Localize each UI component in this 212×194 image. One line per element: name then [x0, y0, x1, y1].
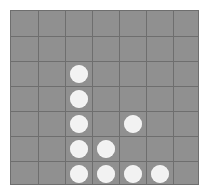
piece-c3-r5[interactable] [70, 115, 88, 133]
piece-c3-r3[interactable] [70, 65, 88, 83]
piece-c4-r6[interactable] [97, 140, 115, 158]
piece-c4-r7[interactable] [97, 165, 115, 183]
grid-game-board[interactable] [10, 10, 199, 185]
piece-c5-r5[interactable] [124, 115, 142, 133]
piece-c5-r7[interactable] [124, 165, 142, 183]
board-container [0, 0, 212, 194]
piece-c3-r6[interactable] [70, 140, 88, 158]
piece-c6-r7[interactable] [151, 165, 169, 183]
piece-c3-r4[interactable] [70, 90, 88, 108]
pieces-layer [11, 11, 198, 184]
piece-c3-r7[interactable] [70, 165, 88, 183]
